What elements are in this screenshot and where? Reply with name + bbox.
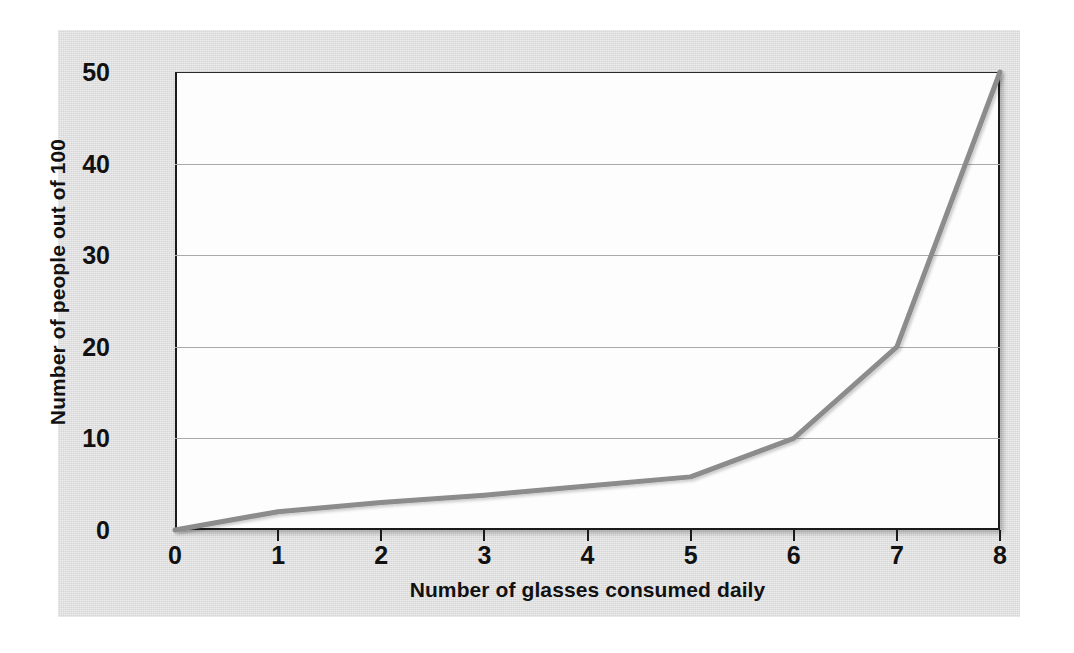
x-tick-labels: 012345678 <box>175 543 1000 577</box>
x-tick-mark-4 <box>587 530 589 541</box>
x-tick-label-7: 7 <box>890 543 904 568</box>
x-tick-mark-2 <box>380 530 382 541</box>
y-axis-title: Number of people out of 100 <box>46 117 70 447</box>
data-line-series <box>175 72 1000 530</box>
x-tick-mark-6 <box>793 530 795 541</box>
y-tick-label-0: 0 <box>96 518 110 543</box>
x-tick-label-3: 3 <box>477 543 491 568</box>
y-tick-label-30: 30 <box>82 243 110 268</box>
series-polyline <box>175 72 1000 530</box>
x-tick-mark-7 <box>896 530 898 541</box>
chart-panel <box>58 30 1020 617</box>
x-tick-mark-8 <box>999 530 1001 541</box>
x-tick-label-5: 5 <box>684 543 698 568</box>
x-tick-mark-5 <box>690 530 692 541</box>
plot-area <box>175 72 1000 530</box>
x-tick-label-8: 8 <box>993 543 1007 568</box>
x-tick-mark-1 <box>277 530 279 541</box>
x-axis-title: Number of glasses consumed daily <box>175 578 1000 602</box>
x-tick-label-2: 2 <box>374 543 388 568</box>
y-tick-label-40: 40 <box>82 152 110 177</box>
x-tick-label-6: 6 <box>787 543 801 568</box>
x-tick-label-4: 4 <box>581 543 595 568</box>
x-tick-label-1: 1 <box>271 543 285 568</box>
y-tick-label-50: 50 <box>82 60 110 85</box>
x-tick-mark-3 <box>483 530 485 541</box>
x-tick-label-0: 0 <box>168 543 182 568</box>
y-tick-label-10: 10 <box>82 426 110 451</box>
figure-root: 01020304050 012345678 Number of glasses … <box>0 0 1074 653</box>
y-tick-label-20: 20 <box>82 335 110 360</box>
